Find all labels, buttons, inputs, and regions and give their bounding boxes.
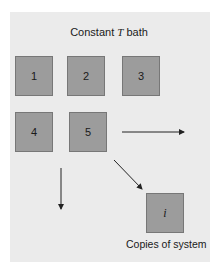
arrow-diagonal-icon: [114, 160, 142, 189]
arrows-layer: [0, 0, 218, 269]
caption: Copies of system: [126, 238, 207, 250]
